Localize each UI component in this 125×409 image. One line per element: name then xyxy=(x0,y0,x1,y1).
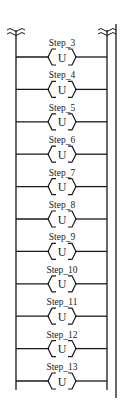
coil-icon: U xyxy=(48,179,76,195)
rung-label: Step_6 xyxy=(49,135,76,145)
rung: UStep_10 xyxy=(16,265,107,292)
rung-label: Step_8 xyxy=(49,200,76,210)
rung-label: Step_10 xyxy=(46,265,77,275)
coil-icon: U xyxy=(48,114,76,130)
coil-icon: U xyxy=(48,211,76,227)
rung-label: Step_3 xyxy=(49,38,76,48)
rungs: UStep_3UStep_4UStep_5UStep_6UStep_7UStep… xyxy=(16,38,107,389)
coil-type: U xyxy=(58,180,67,194)
coil-icon: U xyxy=(48,49,76,65)
rung: UStep_13 xyxy=(16,362,107,389)
coil-type: U xyxy=(58,310,67,324)
coil-icon: U xyxy=(48,81,76,97)
rung-label: Step_12 xyxy=(46,330,77,340)
coil-type: U xyxy=(58,375,67,389)
rung: UStep_5 xyxy=(16,103,107,130)
coil-type: U xyxy=(58,277,67,291)
coil-type: U xyxy=(58,83,67,97)
rung-label: Step_13 xyxy=(46,362,77,372)
coil-type: U xyxy=(58,148,67,162)
rung: UStep_8 xyxy=(16,200,107,227)
rung: UStep_3 xyxy=(16,38,107,65)
coil-icon: U xyxy=(48,373,76,389)
rung: UStep_6 xyxy=(16,135,107,162)
ladder-diagram: UStep_3UStep_4UStep_5UStep_6UStep_7UStep… xyxy=(0,0,125,409)
rung: UStep_9 xyxy=(16,232,107,259)
coil-icon: U xyxy=(48,243,76,259)
rung: UStep_12 xyxy=(16,330,107,357)
rung-label: Step_11 xyxy=(47,297,78,307)
coil-icon: U xyxy=(48,146,76,162)
coil-type: U xyxy=(58,51,67,65)
coil-type: U xyxy=(58,115,67,129)
coil-icon: U xyxy=(48,276,76,292)
rung: UStep_11 xyxy=(16,297,107,324)
coil-icon: U xyxy=(48,341,76,357)
rung-label: Step_4 xyxy=(49,70,76,80)
coil-type: U xyxy=(58,213,67,227)
coil-icon: U xyxy=(48,308,76,324)
coil-type: U xyxy=(58,342,67,356)
rung: UStep_4 xyxy=(16,70,107,97)
rung-label: Step_7 xyxy=(49,168,76,178)
coil-type: U xyxy=(58,245,67,259)
rung-label: Step_5 xyxy=(49,103,76,113)
rung: UStep_7 xyxy=(16,168,107,195)
rung-label: Step_9 xyxy=(49,232,76,242)
